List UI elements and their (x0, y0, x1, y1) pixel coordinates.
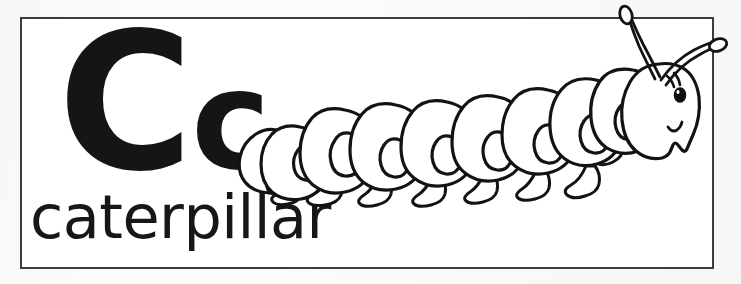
lowercase-letter: c (191, 40, 268, 201)
word-label: caterpillar (30, 186, 331, 247)
flashcard: Cc caterpillar (0, 0, 741, 284)
letter-pair-heading: Cc (58, 8, 269, 198)
